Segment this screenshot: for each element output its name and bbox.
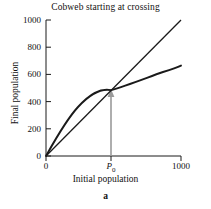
x-tick-label-1000: 1000 xyxy=(172,161,190,171)
x-tick-label-0: 0 xyxy=(44,161,49,171)
y-tick-label-1000: 1000 xyxy=(8,15,41,25)
x-tick-label-p0-subscript: 0 xyxy=(112,166,116,174)
figure-panel: Cobweb starting at crossing xyxy=(0,0,211,209)
x-tick-label-p0: P0 xyxy=(107,161,116,174)
cobweb-start-arrow xyxy=(108,89,115,156)
y-axis-label: Final population xyxy=(10,33,20,153)
panel-caption: a xyxy=(0,191,211,201)
reproduction-curve-series xyxy=(46,66,181,156)
x-axis-label: Initial population xyxy=(0,174,211,184)
y-axis-ticks xyxy=(46,20,51,156)
identity-line-series xyxy=(46,20,181,156)
